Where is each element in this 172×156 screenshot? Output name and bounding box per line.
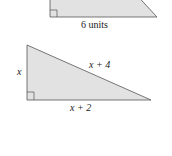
bottom-base-label: x + 2 xyxy=(70,103,91,113)
left-leg-label: x xyxy=(17,67,21,77)
top-base-label: 6 units xyxy=(81,20,108,30)
top-triangle xyxy=(50,0,157,17)
hypotenuse-label: x + 4 xyxy=(89,60,110,70)
bottom-triangle xyxy=(27,45,151,100)
